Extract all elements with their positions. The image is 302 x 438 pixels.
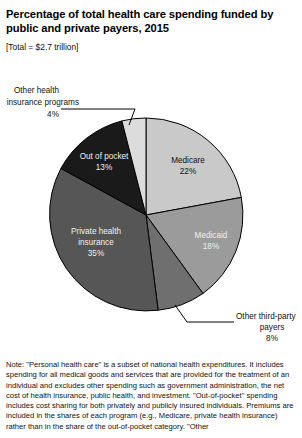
slice-label-out-of-pocket-name: Out of pocket <box>80 152 129 161</box>
pie-chart-figure: Medicare 22% Medicaid 18% Private health… <box>0 66 302 356</box>
slice-label-medicaid-name: Medicaid <box>195 231 228 240</box>
chart-page: Percentage of total health care spending… <box>0 8 302 438</box>
footnote-line-2: spending for all medical goods and servi… <box>6 370 279 379</box>
footnote-line-1: Note: "Personal health care" is a subset… <box>6 360 284 369</box>
chart-total-subtitle: [Total = $2.7 trillion] <box>6 42 294 53</box>
callout-label-other-third-party-payers-line2: payers <box>260 323 285 332</box>
slice-label-medicaid-value: 18% <box>203 242 219 251</box>
slice-label-private-health-insurance-line1: Private health <box>71 227 122 236</box>
callout-label-other-health-insurance-programs-line1: Other health <box>14 86 60 95</box>
chart-footnote: Note: "Personal health care" is a subset… <box>6 360 298 432</box>
pie-chart-svg: Medicare 22% Medicaid 18% Private health… <box>0 66 302 356</box>
slice-label-medicare-name: Medicare <box>171 156 205 165</box>
callout-label-other-third-party-payers-line1: Other third-party <box>236 312 297 321</box>
slice-label-private-health-insurance-line2: insurance <box>78 238 114 247</box>
page-title: Percentage of total health care spending… <box>6 8 294 35</box>
callout-leader-other-third-party-payers <box>175 305 234 322</box>
callout-label-other-health-insurance-programs-line2: insurance programs <box>7 98 79 107</box>
slice-label-out-of-pocket-value: 13% <box>96 163 112 172</box>
callout-label-other-health-insurance-programs-value: 4% <box>47 110 59 119</box>
slice-label-private-health-insurance-value: 35% <box>88 249 104 258</box>
slice-label-medicare-value: 22% <box>180 167 196 176</box>
callout-label-other-third-party-payers-value: 8% <box>266 334 278 343</box>
